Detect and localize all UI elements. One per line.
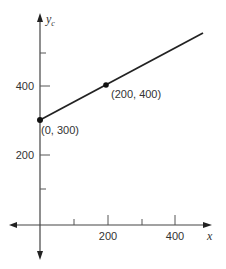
y-axis-down-arrow-icon	[37, 251, 43, 260]
point-label: (200, 400)	[111, 88, 161, 100]
x-axis-right-arrow-icon	[203, 222, 212, 228]
y-tick-label: 400	[16, 80, 34, 92]
data-point	[103, 82, 109, 88]
x-tick-label: 200	[99, 230, 117, 242]
x-tick-label: 400	[166, 230, 184, 242]
y-axis-label: yc	[45, 12, 55, 28]
x-axis-label: x	[206, 229, 213, 243]
series-line: (0, 300) (200, 400)	[37, 33, 203, 136]
y-axis: 400 200 yc	[16, 12, 56, 260]
x-axis-left-arrow-icon	[9, 222, 17, 228]
y-axis-up-arrow-icon	[37, 13, 43, 22]
y-tick-label: 200	[16, 149, 34, 161]
point-label: (0, 300)	[41, 124, 79, 136]
line-chart: 200 400 x 400 200 yc (0, 300) (200, 400)	[0, 0, 226, 269]
data-point	[37, 117, 43, 123]
